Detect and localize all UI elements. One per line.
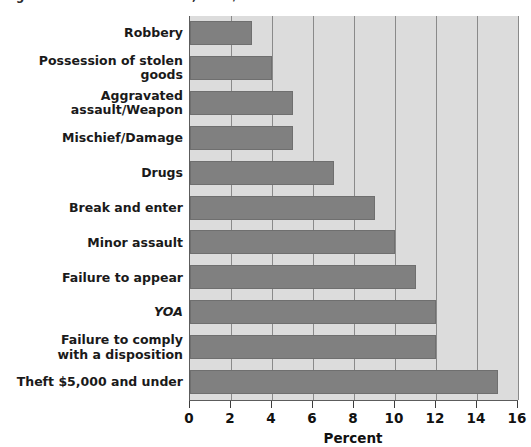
- bar: [190, 91, 293, 115]
- bar-row: [190, 156, 518, 191]
- x-tick-label: 14: [456, 410, 496, 426]
- x-tick-label: 8: [333, 410, 373, 426]
- x-tick-label: 0: [169, 410, 209, 426]
- category-label: YOA: [0, 295, 183, 330]
- category-label: Minor assault: [0, 225, 183, 260]
- bar: [190, 56, 272, 80]
- x-tick-label: 4: [251, 410, 291, 426]
- bar-series: [190, 16, 518, 400]
- category-label: Failure to complywith a disposition: [0, 330, 183, 365]
- x-tick-12: [435, 401, 436, 408]
- bar-row: [190, 191, 518, 226]
- x-axis: 0246810121416 Percent: [189, 401, 519, 447]
- bar-row: [190, 16, 518, 51]
- bar: [190, 161, 334, 185]
- x-tick-10: [394, 401, 395, 408]
- category-axis-labels: RobberyPossession of stolen goodsAggrava…: [0, 16, 183, 400]
- category-label: Break and enter: [0, 191, 183, 226]
- bar: [190, 126, 293, 150]
- bar-row: [190, 260, 518, 295]
- x-tick-label: 16: [497, 410, 531, 426]
- bar-row: [190, 121, 518, 156]
- x-tick-4: [271, 401, 272, 408]
- bar-row: [190, 330, 518, 365]
- bar-row: [190, 51, 518, 86]
- x-tick-2: [230, 401, 231, 408]
- x-tick-label: 10: [374, 410, 414, 426]
- bar: [190, 300, 436, 324]
- x-tick-label: 6: [292, 410, 332, 426]
- category-label: Theft $5,000 and under: [0, 365, 183, 400]
- plot-area: [189, 16, 518, 401]
- bar-row: [190, 295, 518, 330]
- bar: [190, 196, 375, 220]
- category-label: Failure to appear: [0, 260, 183, 295]
- category-label: Possession of stolen goods: [0, 51, 183, 86]
- x-tick-14: [476, 401, 477, 408]
- x-tick-16: [517, 401, 518, 408]
- category-label: Drugs: [0, 156, 183, 191]
- x-tick-0: [189, 401, 190, 408]
- bar: [190, 230, 395, 254]
- category-label: Aggravated assault/Weapon: [0, 86, 183, 121]
- x-tick-6: [312, 401, 313, 408]
- category-label: Robbery: [0, 16, 183, 51]
- x-tick-8: [353, 401, 354, 408]
- x-tick-label: 2: [210, 410, 250, 426]
- bar: [190, 370, 498, 394]
- bar: [190, 265, 416, 289]
- bar-row: [190, 365, 518, 400]
- x-tick-label: 12: [415, 410, 455, 426]
- bar-row: [190, 86, 518, 121]
- bar-row: [190, 225, 518, 260]
- bar: [190, 335, 436, 359]
- x-axis-title: Percent: [189, 430, 517, 446]
- bar: [190, 21, 252, 45]
- category-label: Mischief/Damage: [0, 121, 183, 156]
